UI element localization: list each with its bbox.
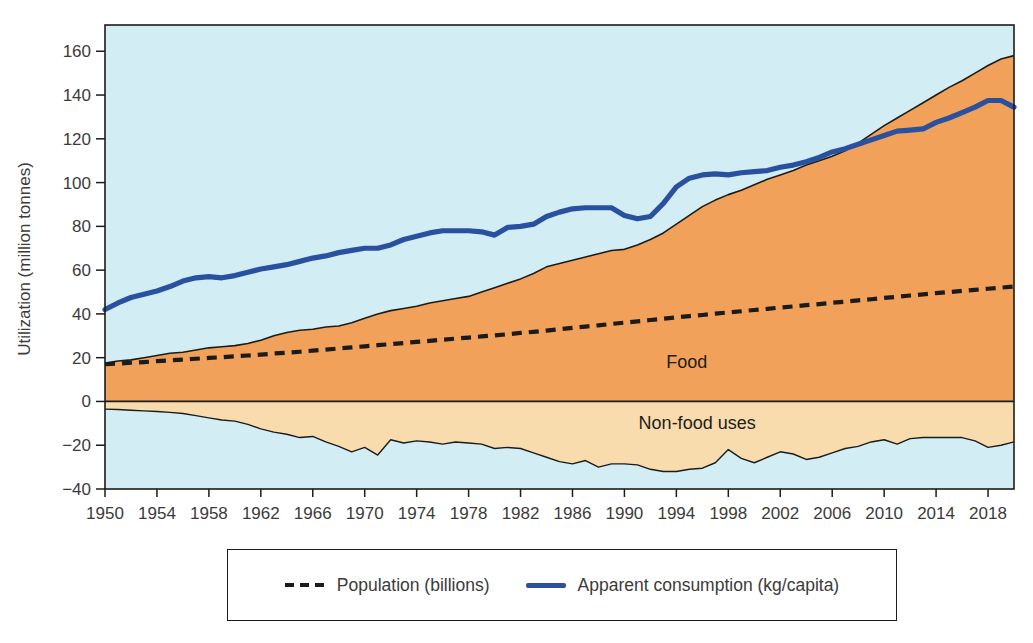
x-tick-label: 1974 xyxy=(398,504,436,523)
area-annotation-non-food-uses: Non-food uses xyxy=(639,413,756,433)
x-tick-label: 1994 xyxy=(657,504,695,523)
legend-label-population: Population (billions) xyxy=(337,575,490,596)
y-tick-label: 0 xyxy=(82,392,91,411)
x-tick-label: 1986 xyxy=(554,504,592,523)
x-tick-label: 1954 xyxy=(138,504,176,523)
x-tick-label: 2014 xyxy=(917,504,955,523)
x-tick-label: 1958 xyxy=(190,504,228,523)
x-tick-label: 1966 xyxy=(294,504,332,523)
y-axis-title: Utilization (million tonnes) xyxy=(15,27,37,491)
utilization-chart: 160140120100806040200−20−401950195419581… xyxy=(0,0,1033,643)
y-tick-label: 40 xyxy=(72,305,91,324)
x-tick-label: 1982 xyxy=(502,504,540,523)
area-annotation-food: Food xyxy=(666,352,707,372)
legend-label-consumption: Apparent consumption (kg/capita) xyxy=(578,575,840,596)
population-dashed-line-swatch xyxy=(285,583,325,587)
y-tick-label: 60 xyxy=(72,261,91,280)
x-tick-label: 2018 xyxy=(969,504,1007,523)
y-tick-label: 100 xyxy=(63,174,91,193)
x-tick-label: 1962 xyxy=(242,504,280,523)
y-tick-label: 160 xyxy=(63,42,91,61)
x-tick-label: 1990 xyxy=(606,504,644,523)
y-tick-label: 20 xyxy=(72,349,91,368)
legend-item-population: Population (billions) xyxy=(285,575,490,596)
legend-item-consumption: Apparent consumption (kg/capita) xyxy=(526,575,840,596)
x-tick-label: 1978 xyxy=(450,504,488,523)
y-tick-label: −40 xyxy=(62,480,91,499)
x-tick-label: 2006 xyxy=(813,504,851,523)
legend: Population (billions) Apparent consumpti… xyxy=(227,549,897,621)
y-tick-label: 80 xyxy=(72,217,91,236)
x-tick-label: 1998 xyxy=(709,504,747,523)
x-tick-label: 2002 xyxy=(761,504,799,523)
figure-root: 160140120100806040200−20−401950195419581… xyxy=(0,0,1033,643)
x-tick-label: 2010 xyxy=(865,504,903,523)
x-tick-label: 1950 xyxy=(86,504,124,523)
consumption-solid-line-swatch xyxy=(526,583,566,588)
x-tick-label: 1970 xyxy=(346,504,384,523)
y-tick-label: −20 xyxy=(62,436,91,455)
y-tick-label: 140 xyxy=(63,86,91,105)
y-tick-label: 120 xyxy=(63,130,91,149)
